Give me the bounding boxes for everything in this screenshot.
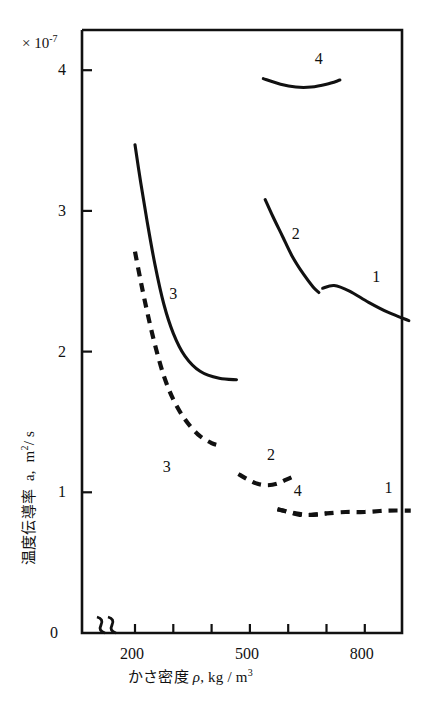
- x-tick-label-200: 200: [120, 646, 144, 662]
- y-axis-multiplier-exponent: -7: [49, 33, 57, 44]
- x-tick-label-500: 500: [235, 646, 259, 662]
- x-axis-title-unit: kg / m: [208, 669, 248, 685]
- y-axis-title-unit-tail: / s: [21, 431, 37, 445]
- curve-4: [263, 79, 340, 88]
- y-tick-label-0: 0: [50, 625, 58, 641]
- curve-label-3-4: 3: [163, 459, 171, 475]
- x-axis-title-main: かさ密度: [128, 669, 189, 685]
- curve-2: [265, 200, 319, 293]
- ticks-group: [82, 70, 365, 633]
- x-axis-title: かさ密度 ρ, kg / m3: [128, 668, 253, 685]
- y-tick-label-4: 4: [58, 62, 66, 78]
- curve-1: [323, 285, 409, 320]
- y-axis-multiplier: × 10-7: [22, 34, 58, 51]
- y-axis-title-unit: m: [21, 451, 37, 463]
- break-squiggle-right: [108, 617, 116, 633]
- curve-label-2-1: 2: [292, 226, 300, 242]
- curve-label-4-0: 4: [315, 51, 323, 67]
- y-axis-title-main: 温度伝導率: [21, 489, 37, 565]
- y-axis-multiplier-base: × 10: [22, 35, 49, 51]
- curve-4d: [277, 509, 326, 515]
- axes-group: [82, 30, 402, 633]
- y-axis-title-unit-exponent: 2: [19, 445, 30, 450]
- y-axis-title: 温度伝導率 a, m2/ s: [20, 431, 37, 565]
- curve-label-3-3: 3: [169, 286, 177, 302]
- figure-temperature-diffusivity-vs-bulk-density: × 10-7 温度伝導率 a, m2/ s かさ密度 ρ, kg / m3 20…: [0, 0, 421, 708]
- y-axis-title-symbol: a: [21, 474, 37, 481]
- x-axis-title-unit-exponent: 3: [248, 667, 253, 678]
- x-tick-label-800: 800: [350, 646, 374, 662]
- curve-label-2-5: 2: [267, 447, 275, 463]
- curve-label-1-2: 1: [372, 269, 380, 285]
- y-tick-label-2: 2: [58, 344, 66, 360]
- curve-3d: [135, 252, 221, 446]
- y-tick-label-1: 1: [58, 484, 66, 500]
- curve-label-1-7: 1: [385, 480, 393, 496]
- axis-break-squiggle-icon: [97, 617, 116, 633]
- x-axis-title-symbol: ρ: [193, 669, 200, 685]
- break-squiggle-left: [97, 617, 105, 633]
- curve-label-4-6: 4: [294, 483, 302, 499]
- plot-frame: [82, 30, 402, 633]
- y-tick-label-3: 3: [58, 203, 66, 219]
- curve-2d: [238, 474, 295, 485]
- curve-3: [135, 145, 237, 380]
